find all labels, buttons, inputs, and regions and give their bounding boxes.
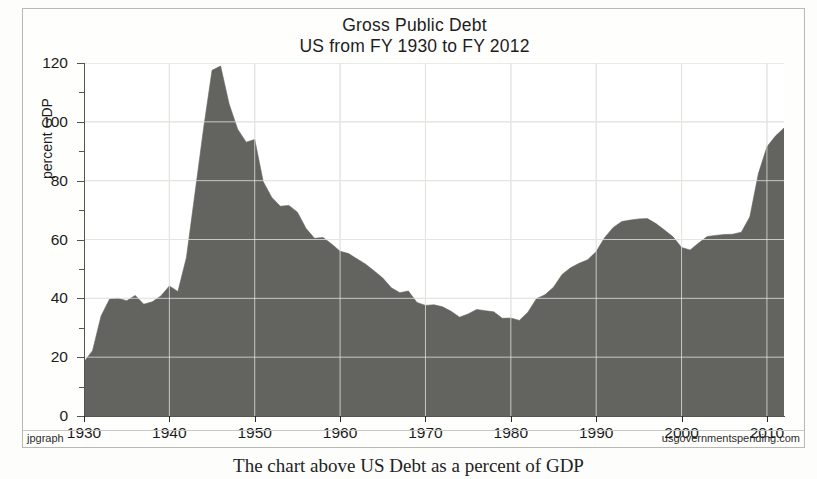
y-tick-minor	[79, 151, 84, 152]
y-tick-label: 20	[51, 348, 68, 366]
y-tick-label: 40	[51, 289, 68, 307]
y-tick-minor	[79, 92, 84, 93]
x-axis-line	[84, 416, 785, 417]
chart-title: Gross Public Debt	[23, 15, 806, 36]
y-tick-label: 120	[42, 54, 68, 72]
plot-wrapper: 020406080100120 193019401950196019701980…	[84, 63, 806, 416]
series-layer	[84, 66, 784, 416]
y-tick-major: 40	[77, 298, 84, 299]
footer-credit-left: jpgraph	[27, 432, 64, 444]
x-tick-major	[682, 416, 683, 422]
chart-subtitle: US from FY 1930 to FY 2012	[23, 36, 806, 57]
y-tick-label: 0	[59, 407, 68, 425]
x-tick-major	[340, 416, 341, 422]
plot-area	[84, 63, 784, 416]
figure-page: Gross Public Debt US from FY 1930 to FY …	[0, 0, 817, 479]
x-tick-major	[767, 416, 768, 422]
chart-frame: Gross Public Debt US from FY 1930 to FY …	[22, 8, 805, 448]
y-tick-label: 80	[51, 172, 68, 190]
x-tick-major	[84, 416, 85, 422]
y-tick-minor	[79, 387, 84, 388]
y-tick-minor	[79, 210, 84, 211]
y-tick-major: 100	[77, 122, 84, 123]
y-tick-minor	[79, 328, 84, 329]
area-chart-svg	[84, 63, 784, 416]
x-tick-major	[255, 416, 256, 422]
footer-source-link: usgovernmentspending.com	[662, 432, 800, 444]
footer-divider	[23, 430, 804, 431]
y-tick-major: 120	[77, 63, 84, 64]
x-tick-major	[511, 416, 512, 422]
y-axis-line	[84, 63, 85, 417]
y-tick-major: 20	[77, 357, 84, 358]
y-tick-label: 60	[51, 231, 68, 249]
y-tick-major: 60	[77, 240, 84, 241]
x-tick-major	[169, 416, 170, 422]
y-axis-title: percent GDP	[39, 98, 55, 179]
chart-footer: jpgraph usgovernmentspending.com	[23, 425, 804, 447]
x-tick-major	[425, 416, 426, 422]
y-tick-minor	[79, 269, 84, 270]
chart-title-block: Gross Public Debt US from FY 1930 to FY …	[23, 15, 806, 57]
y-tick-major: 0	[77, 416, 84, 417]
y-tick-label: 100	[42, 113, 68, 131]
y-tick-major: 80	[77, 181, 84, 182]
debt-area-series	[84, 66, 784, 416]
x-tick-major	[596, 416, 597, 422]
figure-caption: The chart above US Debt as a percent of …	[0, 455, 817, 477]
